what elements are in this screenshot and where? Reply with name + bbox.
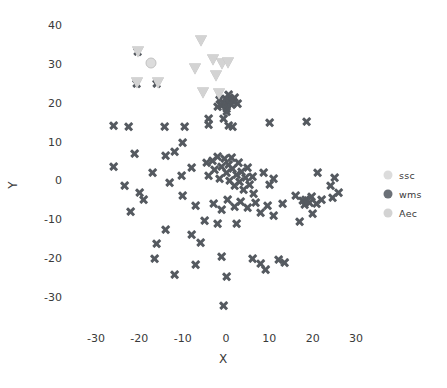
data-point-wms [200, 216, 209, 225]
x-tick-label: 10 [262, 332, 276, 345]
y-tick-label: -10 [44, 213, 62, 226]
data-point-wms [278, 199, 287, 208]
plot-area [0, 0, 447, 388]
legend-item-ssc[interactable]: ssc [381, 167, 443, 183]
data-point-wms [251, 198, 260, 207]
data-point-wms [300, 200, 309, 209]
data-point-wms [139, 195, 148, 204]
data-point-wms [178, 138, 187, 147]
data-point-wms [124, 122, 133, 131]
data-point-wms [109, 121, 118, 130]
data-point-wms [213, 219, 222, 228]
legend-marker-icon [381, 188, 394, 201]
legend-item-label: wms [399, 189, 422, 200]
data-point-wms [170, 147, 179, 156]
data-point-wms [161, 225, 170, 234]
chart-legend: sscwmsAec [381, 167, 443, 224]
x-tick-label: -30 [87, 332, 105, 345]
data-point-wms [217, 252, 226, 261]
data-point-wms [232, 219, 241, 228]
data-point-wms [152, 239, 161, 248]
data-point-wms [177, 171, 186, 180]
legend-item-label: Aec [399, 208, 417, 219]
scatter-chart: X Y sscwmsAec 403020100-10-20-30-30-20-1… [0, 0, 447, 388]
data-point-wms [233, 99, 242, 108]
data-point-wms [178, 191, 187, 200]
x-tick-label: 30 [349, 332, 363, 345]
data-point-Aec [152, 78, 164, 89]
data-point-wms [187, 230, 196, 239]
data-point-wms [161, 151, 170, 160]
data-point-Aec [131, 78, 143, 89]
data-point-wms [191, 260, 200, 269]
y-tick-label: 30 [48, 57, 62, 70]
data-point-wms [280, 258, 289, 267]
data-point-wms [228, 122, 237, 131]
y-tick-label: 0 [55, 174, 62, 187]
data-point-Aec [213, 89, 225, 100]
data-point-wms [217, 205, 226, 214]
data-point-wms [269, 174, 278, 183]
data-point-wms [326, 181, 335, 190]
data-point-ssc [146, 58, 157, 69]
data-point-wms [317, 195, 326, 204]
data-point-wms [265, 118, 274, 127]
data-point-wms [170, 270, 179, 279]
data-point-wms [330, 173, 339, 182]
data-point-wms [165, 178, 174, 187]
y-tick-label: 20 [48, 96, 62, 109]
x-tick-label: -20 [130, 332, 148, 345]
data-point-wms [259, 168, 268, 177]
data-point-wms [334, 188, 343, 197]
x-tick-label: 0 [223, 332, 230, 345]
data-point-wms [126, 207, 135, 216]
data-point-wms [295, 217, 304, 226]
data-point-wms [269, 211, 278, 220]
data-point-wms [261, 265, 270, 274]
legend-marker-icon [381, 207, 394, 220]
y-tick-label: 10 [48, 135, 62, 148]
data-point-Aec [132, 47, 144, 58]
data-point-Aec [210, 70, 222, 81]
data-point-wms [213, 102, 222, 111]
data-point-wms [302, 117, 311, 126]
legend-item-Aec[interactable]: Aec [381, 205, 443, 221]
data-point-wms [196, 238, 205, 247]
data-point-wms [160, 122, 169, 131]
data-point-wms [180, 122, 189, 131]
data-point-wms [263, 201, 272, 210]
data-point-wms [219, 301, 228, 310]
data-point-wms [204, 114, 213, 123]
data-point-wms [313, 168, 322, 177]
data-point-wms [245, 180, 254, 189]
data-point-Aec [195, 35, 207, 46]
data-point-wms [150, 254, 159, 263]
data-point-wms [148, 168, 157, 177]
data-point-Aec [222, 58, 234, 69]
y-tick-label: -30 [44, 291, 62, 304]
y-tick-label: -20 [44, 252, 62, 265]
data-point-Aec [189, 64, 201, 75]
y-axis-title: Y [6, 181, 20, 188]
data-point-wms [109, 162, 118, 171]
legend-item-label: ssc [399, 170, 415, 181]
data-point-wms [130, 149, 139, 158]
data-point-wms [234, 158, 243, 167]
data-point-wms [187, 163, 196, 172]
data-point-wms [248, 172, 257, 181]
legend-item-wms[interactable]: wms [381, 186, 443, 202]
data-point-Aec [197, 87, 209, 98]
legend-marker-icon [381, 169, 394, 182]
data-point-wms [248, 254, 257, 263]
data-point-wms [219, 114, 228, 123]
x-tick-label: 20 [306, 332, 320, 345]
data-point-wms [222, 272, 231, 281]
y-tick-label: 40 [48, 19, 62, 32]
data-point-wms [308, 209, 317, 218]
x-axis-title: X [219, 352, 227, 366]
data-point-wms [120, 181, 129, 190]
data-point-wms [191, 201, 200, 210]
x-tick-label: -10 [174, 332, 192, 345]
